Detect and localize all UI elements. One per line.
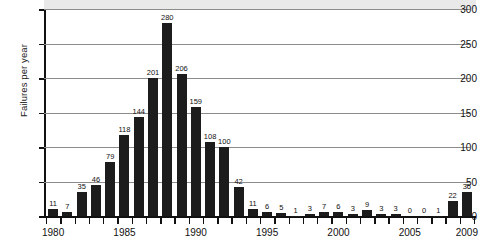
- bar-value-label: 159: [190, 98, 203, 106]
- x-tick-mark: [89, 218, 90, 224]
- bar: [376, 214, 386, 216]
- x-tick-mark: [103, 218, 104, 224]
- bar: [205, 142, 215, 217]
- plot-area: 1173546791181442012802061591081004211651…: [44, 9, 476, 218]
- bar-value-label: 9: [365, 201, 369, 209]
- bar-slot: 206: [174, 9, 188, 216]
- bar-slot: 9: [360, 9, 374, 216]
- x-tick-label: 2000: [327, 227, 349, 238]
- x-tick-mark: [117, 218, 118, 224]
- bar: [219, 147, 229, 216]
- y-tick-mark: [39, 78, 44, 79]
- x-tick-mark: [346, 218, 347, 224]
- x-tick-mark: [260, 218, 261, 224]
- x-tick-mark: [231, 218, 232, 224]
- x-tick-mark: [75, 218, 76, 224]
- x-tick-mark: [331, 218, 332, 224]
- bar-value-label: 206: [175, 65, 188, 73]
- bar-value-label: 3: [351, 205, 355, 213]
- bar-slot: 201: [146, 9, 160, 216]
- x-tick-mark: [388, 218, 389, 224]
- bar: [48, 209, 58, 217]
- x-tick-mark: [160, 218, 161, 224]
- x-tick-mark: [303, 218, 304, 224]
- bar: [148, 78, 158, 217]
- bar-value-label: 6: [336, 203, 340, 211]
- x-tick-mark: [217, 218, 218, 224]
- bar-value-label: 6: [265, 203, 269, 211]
- x-tick-label: 2005: [399, 227, 421, 238]
- y-tick-label: 200: [437, 73, 477, 84]
- x-tick-mark: [460, 218, 461, 224]
- bar-value-label: 280: [161, 14, 174, 22]
- x-tick-mark: [246, 218, 247, 224]
- bar-slot: 0: [417, 9, 431, 216]
- x-tick-mark: [289, 218, 290, 224]
- y-tick-mark: [39, 9, 44, 10]
- bar-value-label: 35: [77, 183, 85, 191]
- x-tick-mark: [403, 218, 404, 224]
- top-gray-band: [44, 0, 476, 9]
- bar-value-label: 7: [322, 203, 326, 211]
- x-tick-mark: [146, 218, 147, 224]
- bar-series: 1173546791181442012802061591081004211651…: [46, 9, 474, 216]
- bar: [105, 162, 115, 217]
- bar-value-label: 0: [408, 207, 412, 215]
- bar-slot: 3: [388, 9, 402, 216]
- x-tick-mark: [274, 218, 275, 224]
- x-tick-mark: [60, 218, 61, 224]
- bar-slot: 3: [303, 9, 317, 216]
- bar-slot: 118: [117, 9, 131, 216]
- bar-slot: 6: [331, 9, 345, 216]
- x-tick-mark: [46, 218, 47, 224]
- x-tick-mark: [174, 218, 175, 224]
- bar-slot: 144: [132, 9, 146, 216]
- bar: [91, 185, 101, 217]
- bar-value-label: 42: [234, 178, 242, 186]
- bar-slot: 11: [46, 9, 60, 216]
- bar: [62, 212, 72, 217]
- bar-slot: 5: [274, 9, 288, 216]
- bar-slot: 100: [217, 9, 231, 216]
- y-tick-mark: [39, 113, 44, 114]
- x-tick-mark: [374, 218, 375, 224]
- y-tick-label: 150: [437, 107, 477, 118]
- x-tick-label: 1980: [42, 227, 64, 238]
- bar: [333, 212, 343, 216]
- bar: [276, 213, 286, 216]
- bar-value-label: 46: [92, 176, 100, 184]
- y-tick-label: 50: [437, 176, 477, 187]
- bar-value-label: 22: [448, 192, 456, 200]
- bar-slot: 11: [246, 9, 260, 216]
- bar-slot: 108: [203, 9, 217, 216]
- x-tick-mark: [474, 218, 475, 224]
- bar-value-label: 3: [308, 205, 312, 213]
- bar-slot: 159: [189, 9, 203, 216]
- y-axis-title: Failures per year: [18, 16, 29, 146]
- y-tick-mark: [39, 182, 44, 183]
- bar: [234, 187, 244, 216]
- bar-value-label: 100: [218, 138, 231, 146]
- x-tick-mark: [189, 218, 190, 224]
- bar: [119, 135, 129, 216]
- y-tick-mark: [39, 147, 44, 148]
- bar: [162, 23, 172, 216]
- x-tick-mark: [132, 218, 133, 224]
- bar-slot: 79: [103, 9, 117, 216]
- bar-slot: 280: [160, 9, 174, 216]
- bar-slot: 7: [60, 9, 74, 216]
- y-tick-mark: [39, 44, 44, 45]
- bar-value-label: 11: [49, 200, 57, 208]
- bar-slot: 3: [346, 9, 360, 216]
- x-tick-mark: [417, 218, 418, 224]
- bar: [391, 214, 401, 216]
- bar: [77, 192, 87, 216]
- x-axis: 1980198519901995200020052009: [44, 218, 476, 251]
- x-tick-mark: [203, 218, 204, 224]
- bar-slot: 42: [231, 9, 245, 216]
- bar-slot: 7: [317, 9, 331, 216]
- bar: [362, 210, 372, 216]
- bar: [305, 214, 315, 216]
- bar: [348, 214, 358, 216]
- bar-slot: 35: [75, 9, 89, 216]
